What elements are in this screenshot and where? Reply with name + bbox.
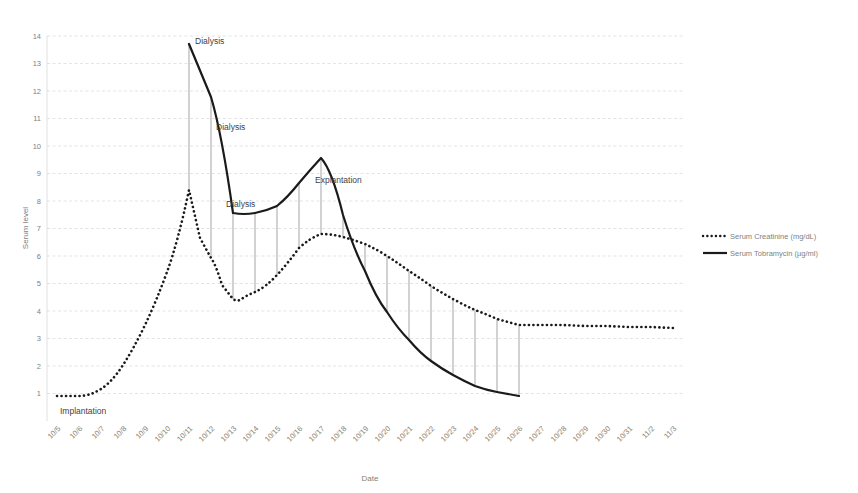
annotation-dialysis-2: Dialysis bbox=[216, 122, 245, 132]
x-tick-label: 10/18 bbox=[329, 424, 349, 444]
x-tick-label: 10/15 bbox=[263, 424, 283, 444]
x-tick-label: 10/29 bbox=[571, 424, 591, 444]
x-tick-label: 10/25 bbox=[483, 424, 503, 444]
x-tick-label: 10/17 bbox=[307, 424, 327, 444]
series-serum-tobramycin bbox=[189, 44, 519, 396]
y-tick-label: 4 bbox=[37, 307, 41, 316]
y-tick-label: 9 bbox=[37, 169, 41, 178]
x-tick-label: 10/5 bbox=[46, 424, 63, 441]
x-tick-label: 10/14 bbox=[241, 424, 261, 444]
series-serum-creatinine bbox=[57, 190, 673, 396]
y-tick-label: 3 bbox=[37, 334, 41, 343]
legend-label-creatinine: Serum Creatinine (mg/dL) bbox=[730, 232, 817, 241]
y-tick-label: 14 bbox=[33, 32, 41, 41]
y-tick-label: 7 bbox=[37, 224, 41, 233]
x-tick-label: 10/19 bbox=[351, 424, 371, 444]
annotation-dialysis-3: Dialysis bbox=[226, 199, 255, 209]
annotation-explantation: Explantation bbox=[315, 175, 362, 185]
x-tick-label: 10/9 bbox=[134, 424, 151, 441]
x-tick-label: 10/7 bbox=[90, 424, 107, 441]
y-tick-label: 10 bbox=[33, 142, 41, 151]
x-tick-label: 10/28 bbox=[549, 424, 569, 444]
annotation-dialysis-1: Dialysis bbox=[195, 36, 224, 46]
x-tick-label: 10/31 bbox=[615, 424, 635, 444]
chart-legend: Serum Creatinine (mg/dL) Serum Tobramyci… bbox=[703, 232, 818, 258]
x-tick-label: 10/6 bbox=[68, 424, 85, 441]
x-tick-label: 11/3 bbox=[662, 424, 678, 440]
y-tick-label: 5 bbox=[37, 279, 41, 288]
x-tick-label: 10/13 bbox=[219, 424, 239, 444]
x-tick-label: 10/21 bbox=[395, 424, 415, 444]
x-tick-label: 10/30 bbox=[593, 424, 613, 444]
x-axis-title: Date bbox=[362, 474, 379, 483]
chart-container: 1413121110987654321 10/510/610/710/810/9… bbox=[0, 0, 858, 493]
serum-level-line-chart: 1413121110987654321 10/510/610/710/810/9… bbox=[0, 0, 858, 493]
y-tick-label: 12 bbox=[33, 87, 41, 96]
x-axis-ticks: 10/510/610/710/810/910/1010/1110/1210/13… bbox=[46, 424, 679, 444]
x-tick-label: 10/12 bbox=[197, 424, 217, 444]
y-tick-label: 6 bbox=[37, 252, 41, 261]
y-axis-title: Serum level bbox=[21, 207, 30, 249]
x-tick-label: 11/2 bbox=[640, 424, 656, 440]
legend-label-tobramycin: Serum Tobramycin (µg/ml) bbox=[730, 249, 818, 258]
y-tick-label: 1 bbox=[37, 389, 41, 398]
y-axis-ticks: 1413121110987654321 bbox=[33, 32, 41, 399]
x-tick-label: 10/27 bbox=[527, 424, 547, 444]
y-tick-label: 13 bbox=[33, 59, 41, 68]
x-tick-label: 10/8 bbox=[112, 424, 129, 441]
y-tick-label: 11 bbox=[33, 114, 41, 123]
x-tick-label: 10/16 bbox=[285, 424, 305, 444]
x-tick-label: 10/11 bbox=[175, 424, 194, 443]
x-tick-label: 10/24 bbox=[461, 424, 481, 444]
x-tick-label: 10/26 bbox=[505, 424, 525, 444]
x-tick-label: 10/22 bbox=[417, 424, 437, 444]
y-tick-label: 2 bbox=[37, 362, 41, 371]
x-tick-label: 10/23 bbox=[439, 424, 459, 444]
x-tick-label: 10/10 bbox=[153, 424, 173, 444]
droplines bbox=[189, 44, 519, 396]
y-tick-label: 8 bbox=[37, 197, 41, 206]
x-tick-label: 10/20 bbox=[373, 424, 393, 444]
annotation-implantation: Implantation bbox=[60, 406, 107, 416]
gridlines bbox=[47, 36, 684, 394]
